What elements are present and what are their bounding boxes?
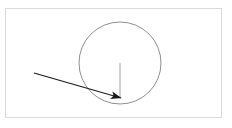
diagram-canvas [0,0,232,128]
diagram-border [6,9,222,118]
geometry-figure [0,0,232,128]
